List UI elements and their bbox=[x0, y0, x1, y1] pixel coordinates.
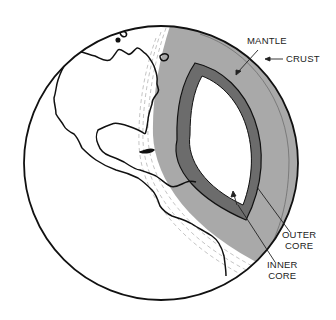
outer-core-label-line2: CORE bbox=[282, 240, 316, 251]
crust-label: CRUST bbox=[286, 53, 320, 64]
inner-core-label-line2: CORE bbox=[267, 270, 298, 281]
inner-core-label-line1: INNER bbox=[267, 259, 298, 270]
crust-label-text: CRUST bbox=[286, 53, 320, 64]
outer-core-label-line1: OUTER bbox=[282, 229, 316, 240]
mantle-label: MANTLE bbox=[247, 35, 287, 46]
mantle-label-text: MANTLE bbox=[247, 35, 287, 46]
inner-core-label: INNER CORE bbox=[267, 259, 298, 281]
outer-core-label: OUTER CORE bbox=[282, 229, 316, 251]
arctic-island-dot bbox=[116, 38, 120, 42]
crust-arrow-icon bbox=[265, 57, 270, 61]
